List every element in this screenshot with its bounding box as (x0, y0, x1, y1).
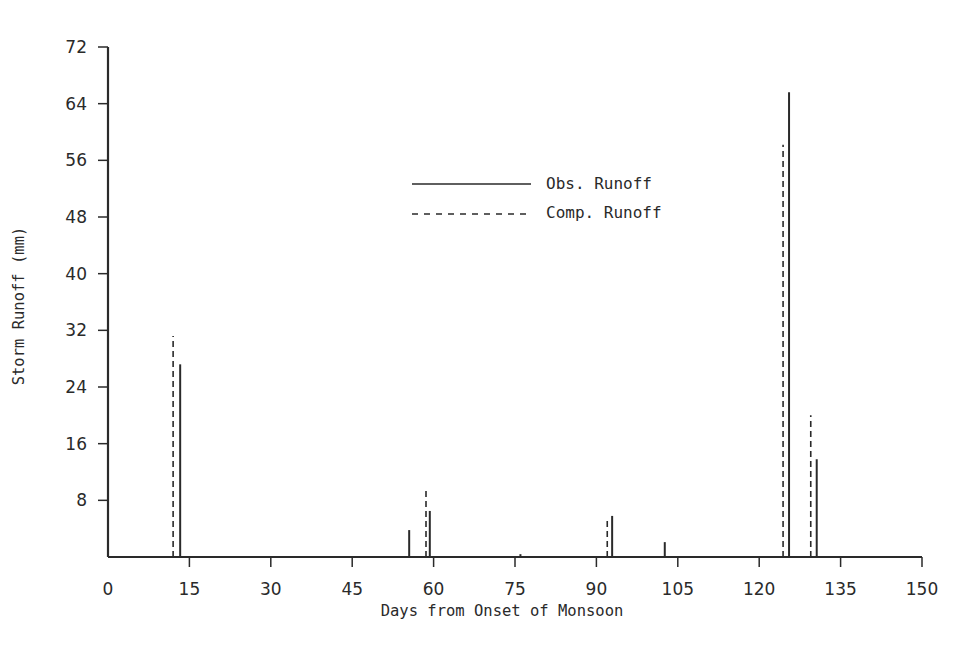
x-tick-label: 15 (179, 579, 201, 599)
x-tick-label: 90 (586, 579, 608, 599)
y-tick-label: 56 (65, 150, 87, 170)
y-tick-label: 8 (76, 490, 87, 510)
x-tick-label: 60 (423, 579, 445, 599)
y-tick-label: 48 (65, 207, 87, 227)
y-axis-ticks: 81624324048566472 (65, 37, 108, 510)
x-tick-label: 0 (103, 579, 114, 599)
x-axis-ticks: 0153045607590105120135150 (103, 557, 939, 599)
series-layer (173, 92, 817, 557)
x-tick-label: 150 (906, 579, 938, 599)
y-tick-label: 16 (65, 434, 87, 454)
x-tick-label: 120 (743, 579, 775, 599)
legend-label-obs: Obs. Runoff (546, 174, 652, 193)
x-tick-label: 135 (824, 579, 856, 599)
legend-label-comp: Comp. Runoff (546, 203, 662, 222)
y-axis-label: Storm Runoff (mm) (10, 227, 28, 386)
x-tick-label: 30 (260, 579, 282, 599)
x-tick-label: 105 (662, 579, 694, 599)
x-axis-label: Days from Onset of Monsoon (381, 602, 624, 620)
y-tick-label: 24 (65, 377, 87, 397)
x-tick-label: 75 (504, 579, 526, 599)
y-tick-label: 32 (65, 320, 87, 340)
y-tick-label: 40 (65, 264, 87, 284)
runoff-chart: 81624324048566472 0153045607590105120135… (0, 0, 966, 649)
legend: Obs. Runoff Comp. Runoff (412, 174, 662, 222)
y-tick-label: 72 (65, 37, 87, 57)
x-tick-label: 45 (341, 579, 363, 599)
y-tick-label: 64 (65, 94, 87, 114)
